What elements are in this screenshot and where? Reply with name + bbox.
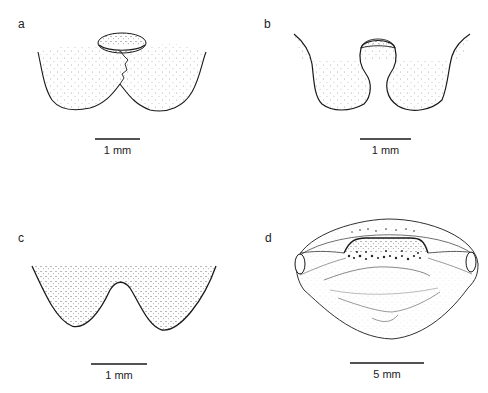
panel-c-label: c xyxy=(18,231,24,245)
panel-d-drawing xyxy=(295,219,478,339)
panel-a-label: a xyxy=(18,17,25,31)
scale-label-b: 1 mm xyxy=(360,144,411,156)
scale-label-d: 5 mm xyxy=(350,368,424,380)
panel-b-label: b xyxy=(264,17,271,31)
figure-canvas xyxy=(0,0,488,393)
scale-label-a: 1 mm xyxy=(95,144,140,156)
panel-a-drawing xyxy=(38,33,206,111)
scale-label-c: 1 mm xyxy=(91,369,147,381)
panel-c-drawing xyxy=(32,266,216,330)
panel-b-drawing xyxy=(294,34,470,110)
panel-d-label: d xyxy=(265,231,272,245)
